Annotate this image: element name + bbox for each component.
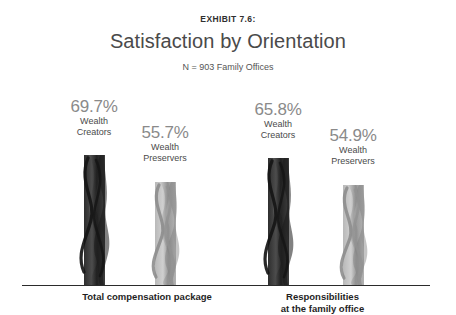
value-label: 65.8% [235,101,321,119]
series-label-line1: Wealth [235,120,321,130]
value-label: 54.9% [310,127,396,145]
axis-baseline [22,285,430,286]
bar-label-preservers-compensation: 55.7% Wealth Preservers [122,124,208,164]
axis-label-line1: Total compensation package [47,291,247,303]
axis-label-line2: at the family office [245,303,400,315]
bar-wealth-preservers-compensation [153,182,179,285]
axis-label-responsibilities: Responsibilities at the family office [245,291,400,315]
series-label-line2: Preservers [310,157,396,167]
series-label-line1: Wealth [122,143,208,153]
axis-label-compensation: Total compensation package [47,291,247,303]
series-label-line2: Creators [235,131,321,141]
bar-wealth-preservers-responsibilities [341,185,367,285]
value-label: 69.7% [51,98,137,116]
value-label: 55.7% [122,124,208,142]
bar-wealth-creators-compensation [81,155,109,285]
bar-label-preservers-responsibilities: 54.9% Wealth Preservers [310,127,396,167]
series-label-line2: Preservers [122,154,208,164]
plot-area: 69.7% Wealth Creators 55.7% Wealth Prese… [0,0,456,315]
axis-label-line1: Responsibilities [245,291,400,303]
bar-label-creators-responsibilities: 65.8% Wealth Creators [235,101,321,141]
series-label-line1: Wealth [310,146,396,156]
chart-page: EXHIBIT 7.6: Satisfaction by Orientation… [0,0,456,315]
bar-wealth-creators-responsibilities [265,158,293,285]
